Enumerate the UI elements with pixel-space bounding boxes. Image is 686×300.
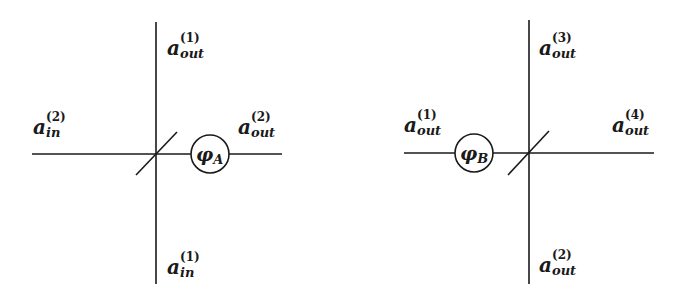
- svg-text:in: in: [46, 125, 60, 140]
- label-bottom: a (1) in: [167, 250, 200, 280]
- svg-text:(2): (2): [251, 110, 271, 124]
- svg-text:a: a: [167, 255, 180, 279]
- label-left: a (2) in: [33, 110, 66, 140]
- diagram-b: φB a (3) out a (1) out a (4) out a (2) o…: [404, 20, 654, 284]
- svg-text:a: a: [539, 36, 552, 60]
- label-right: a (2) out: [238, 110, 275, 140]
- svg-text:a: a: [167, 36, 180, 60]
- label-bottom: a (2) out: [539, 248, 576, 278]
- svg-text:out: out: [180, 46, 204, 61]
- svg-text:(3): (3): [552, 31, 572, 45]
- svg-text:a: a: [238, 115, 251, 139]
- svg-text:out: out: [552, 46, 576, 61]
- svg-text:a: a: [33, 115, 46, 139]
- svg-text:a: a: [539, 253, 552, 277]
- svg-text:out: out: [417, 123, 441, 138]
- svg-text:a: a: [404, 113, 417, 137]
- svg-text:(2): (2): [46, 110, 66, 124]
- diagram-canvas: φA a (1) out a (2) in a (2) out a (1) in: [0, 0, 686, 300]
- phase-label: φB: [460, 142, 488, 166]
- label-right: a (4) out: [612, 108, 649, 138]
- svg-text:(2): (2): [552, 248, 572, 262]
- svg-text:(1): (1): [180, 31, 200, 45]
- diagram-a: φA a (1) out a (2) in a (2) out a (1) in: [32, 22, 282, 284]
- label-top: a (1) out: [167, 31, 204, 61]
- svg-text:a: a: [612, 113, 625, 137]
- phase-label: φA: [196, 143, 223, 167]
- svg-text:(4): (4): [625, 108, 645, 122]
- svg-text:out: out: [625, 123, 649, 138]
- svg-text:(1): (1): [417, 108, 437, 122]
- svg-text:in: in: [180, 265, 194, 280]
- svg-text:out: out: [251, 125, 275, 140]
- label-left: a (1) out: [404, 108, 441, 138]
- svg-text:(1): (1): [180, 250, 200, 264]
- label-top: a (3) out: [539, 31, 576, 61]
- svg-text:out: out: [552, 263, 576, 278]
